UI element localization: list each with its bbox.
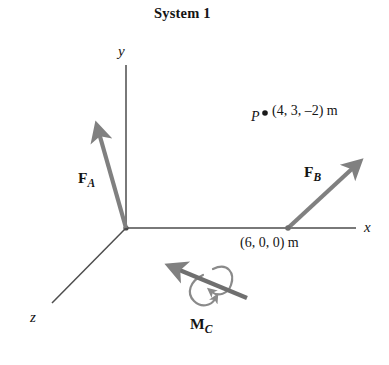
moment-c-label: MC	[190, 316, 212, 335]
moment-c-subscript: C	[205, 323, 213, 335]
z-axis-label: z	[30, 310, 36, 325]
force-a-arrow	[99, 133, 126, 228]
moment-c-arrow	[177, 269, 247, 298]
force-b-label: FB	[304, 164, 321, 183]
vector-diagram-canvas	[0, 0, 389, 365]
point-p-dot	[262, 110, 268, 116]
force-b-subscript: B	[313, 171, 321, 183]
force-a-subscript: A	[87, 177, 95, 189]
x-axis-label: x	[364, 220, 371, 235]
force-b-application-dot	[285, 225, 291, 231]
system-1-figure: System 1 y x z FA FB MC P (4, 3, –2) m (…	[0, 0, 389, 365]
axis-lines	[52, 65, 356, 303]
point-p-coordinates: (4, 3, –2) m	[272, 104, 338, 118]
moment-c-symbol: M	[190, 315, 205, 332]
point-p-label: P	[251, 110, 260, 124]
moment-c-curl	[190, 267, 232, 306]
force-a-label: FA	[78, 170, 95, 189]
y-axis-label: y	[118, 44, 125, 59]
z-axis-line	[52, 228, 126, 303]
force-b-point-coordinates: (6, 0, 0) m	[240, 236, 299, 250]
figure-title: System 1	[154, 6, 211, 21]
